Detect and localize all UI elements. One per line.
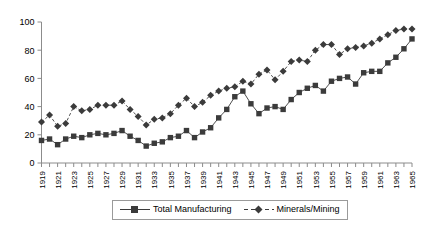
- data-point-marker: [224, 107, 229, 112]
- y-axis-tick-label: 20: [24, 130, 34, 140]
- data-point-marker: [78, 107, 85, 114]
- y-axis-tick-label: 0: [29, 158, 34, 168]
- data-point-marker: [63, 136, 68, 141]
- data-point-marker: [361, 70, 366, 75]
- x-axis-tick-label: 1945: [247, 170, 256, 188]
- data-point-marker: [305, 86, 310, 91]
- data-point-marker: [208, 125, 213, 130]
- x-axis-tick-label: 1939: [199, 170, 208, 188]
- data-point-marker: [313, 83, 318, 88]
- data-point-marker: [345, 74, 350, 79]
- data-point-marker: [321, 88, 326, 93]
- data-point-marker: [127, 134, 132, 139]
- data-point-marker: [337, 76, 342, 81]
- x-axis-tick-label: 1959: [360, 170, 369, 188]
- data-point-marker: [111, 131, 116, 136]
- data-point-marker: [288, 97, 293, 102]
- data-point-marker: [39, 138, 44, 143]
- data-point-marker: [192, 135, 197, 140]
- x-axis-tick-label: 1923: [70, 170, 79, 188]
- data-point-marker: [385, 60, 390, 65]
- x-axis-tick-label: 1943: [231, 170, 240, 188]
- data-point-marker: [47, 136, 52, 141]
- x-axis-tick-label: 1925: [86, 170, 95, 188]
- x-axis-tick-label: 1961: [376, 170, 385, 188]
- data-point-marker: [54, 123, 61, 130]
- data-point-marker: [184, 128, 189, 133]
- x-axis-tick-label: 1965: [408, 170, 417, 188]
- x-axis-tick-label: 1929: [118, 170, 127, 188]
- x-axis-tick-label: 1957: [344, 170, 353, 188]
- data-point-marker: [87, 132, 92, 137]
- legend-entry-minerals-mining: Minerals/Mining: [244, 204, 340, 215]
- x-axis-tick-label: 1919: [38, 170, 47, 188]
- data-point-marker: [94, 102, 101, 109]
- data-point-marker: [304, 58, 311, 65]
- legend-entry-total-manufacturing: Total Manufacturing: [120, 204, 232, 215]
- data-point-marker: [376, 35, 383, 42]
- diamond-marker-icon: [244, 204, 274, 215]
- legend-label-total-manufacturing: Total Manufacturing: [153, 205, 232, 214]
- data-point-marker: [264, 105, 269, 110]
- data-point-marker: [144, 143, 149, 148]
- data-point-marker: [336, 51, 343, 58]
- data-point-marker: [160, 139, 165, 144]
- data-point-marker: [360, 42, 367, 49]
- x-axis-tick-label: 1931: [134, 170, 143, 188]
- data-point-marker: [312, 47, 319, 54]
- data-point-marker: [103, 132, 108, 137]
- data-point-marker: [135, 138, 140, 143]
- x-axis-tick-label: 1955: [328, 170, 337, 188]
- data-point-marker: [297, 90, 302, 95]
- square-marker-icon: [120, 204, 150, 215]
- data-point-marker: [176, 134, 181, 139]
- data-point-marker: [368, 40, 375, 47]
- data-point-marker: [110, 102, 117, 109]
- data-point-marker: [369, 69, 374, 74]
- data-point-marker: [393, 55, 398, 60]
- data-point-marker: [79, 135, 84, 140]
- series-minerals-mining: [38, 26, 416, 130]
- x-axis-tick-label: 1935: [167, 170, 176, 188]
- data-point-marker: [344, 45, 351, 52]
- data-point-marker: [409, 36, 414, 41]
- data-point-marker: [239, 78, 246, 85]
- y-axis-tick-label: 80: [24, 46, 34, 56]
- data-point-marker: [216, 115, 221, 120]
- data-point-marker: [232, 94, 237, 99]
- x-axis-tick-label: 1949: [279, 170, 288, 188]
- data-point-marker: [86, 106, 93, 113]
- x-axis-tick-label: 1921: [54, 170, 63, 188]
- x-axis-tick-label: 1941: [215, 170, 224, 188]
- data-point-marker: [168, 135, 173, 140]
- data-point-marker: [231, 83, 238, 90]
- data-point-marker: [199, 99, 206, 106]
- data-point-marker: [151, 116, 158, 123]
- y-axis-tick-label: 100: [19, 17, 34, 27]
- data-point-marker: [248, 101, 253, 106]
- data-point-marker: [223, 85, 230, 92]
- x-axis-tick-label: 1951: [295, 170, 304, 188]
- y-axis-tick-label: 40: [24, 102, 34, 112]
- data-point-marker: [70, 103, 77, 110]
- data-point-marker: [401, 46, 406, 51]
- data-point-marker: [352, 44, 359, 51]
- x-axis-tick-label: 1933: [150, 170, 159, 188]
- data-point-marker: [392, 27, 399, 34]
- x-axis-tick-label: 1963: [392, 170, 401, 188]
- data-point-marker: [328, 41, 335, 48]
- x-axis-tick-label: 1953: [312, 170, 321, 188]
- line-chart: 0204060801001919192119231925192719291931…: [0, 0, 435, 228]
- data-point-marker: [409, 26, 416, 33]
- data-point-marker: [215, 88, 222, 95]
- x-axis-tick-label: 1927: [102, 170, 111, 188]
- chart-plot-area: 0204060801001919192119231925192719291931…: [0, 0, 435, 228]
- data-point-marker: [152, 141, 157, 146]
- y-axis-tick-label: 60: [24, 74, 34, 84]
- series-total-manufacturing: [39, 36, 415, 149]
- data-point-marker: [200, 129, 205, 134]
- data-point-marker: [320, 41, 327, 48]
- data-point-marker: [240, 88, 245, 93]
- data-point-marker: [159, 114, 166, 121]
- chart-legend: Total Manufacturing Minerals/Mining: [112, 200, 348, 220]
